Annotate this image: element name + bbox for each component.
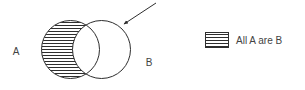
legend: All A are B: [206, 33, 283, 48]
legend-item: All A are B: [206, 33, 283, 48]
euler-diagram-figure: A B All A are B: [0, 0, 305, 90]
pointer-arrow: [124, 3, 156, 24]
set-b-label: B: [146, 57, 153, 68]
hatched-horizontal-swatch-icon: [206, 33, 229, 48]
diagram-canvas: A B All A are B: [0, 0, 305, 90]
legend-item-label: All A are B: [236, 35, 282, 46]
set-a-label: A: [13, 46, 20, 57]
